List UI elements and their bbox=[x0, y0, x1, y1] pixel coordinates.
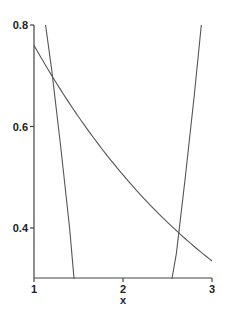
x-axis-title: x bbox=[120, 294, 127, 306]
x-ticks: 123 bbox=[31, 278, 215, 295]
x-tick-label: 1 bbox=[31, 283, 37, 295]
series-lines bbox=[34, 25, 212, 279]
steep-right-line-line bbox=[172, 25, 201, 279]
y-tick-label: 0.8 bbox=[13, 19, 28, 31]
chart: 0.40.60.8 123 x bbox=[0, 0, 228, 321]
decreasing-curve-line bbox=[34, 45, 212, 261]
y-tick-label: 0.4 bbox=[13, 222, 29, 234]
y-tick-label: 0.6 bbox=[13, 121, 28, 133]
steep-left-line-line bbox=[46, 25, 74, 279]
y-ticks: 0.40.60.8 bbox=[13, 19, 34, 234]
plot-area: 0.40.60.8 123 bbox=[13, 19, 215, 295]
x-tick-label: 3 bbox=[209, 283, 215, 295]
